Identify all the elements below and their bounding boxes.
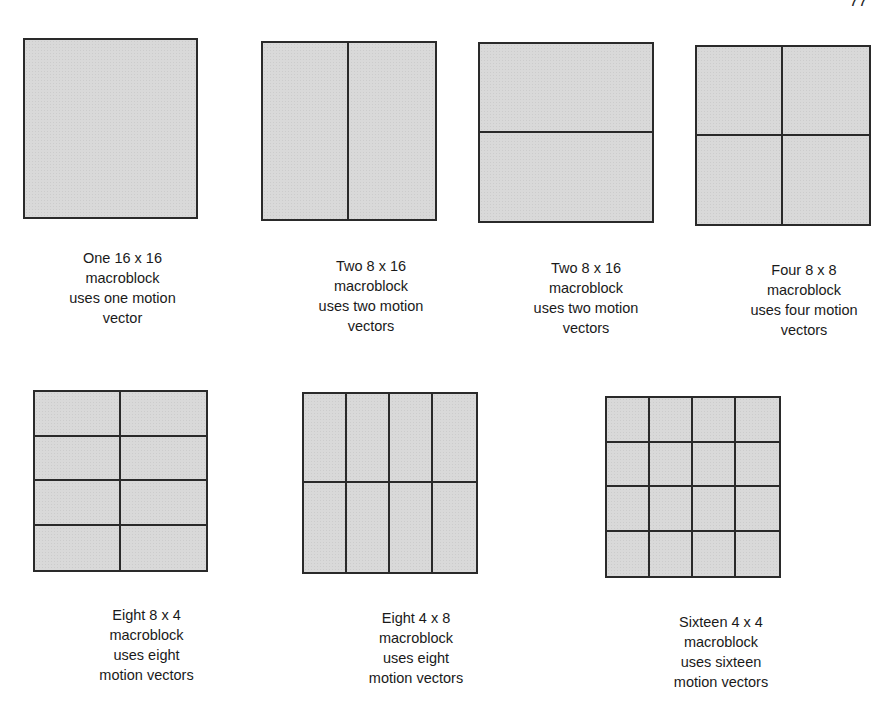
macroblock-4x4 [605,396,781,578]
caption-line: motion vectors [323,668,509,688]
partition-cell [650,487,693,532]
partition-cell [121,526,207,571]
caption-line: macroblock [493,278,679,298]
partition-cell [607,398,650,443]
caption-line: uses four motion [711,300,884,320]
macroblock-8x8 [695,45,871,226]
macroblock-caption: Two 8 x 16macroblockuses two motionvecto… [278,256,464,336]
partition-cell [433,483,476,572]
partition-cell [35,437,121,482]
macroblock-caption: One 16 x 16macroblockuses one motionvect… [30,248,215,328]
partition-cell [736,532,779,577]
partition-cell [263,43,349,219]
partition-cell [480,133,652,222]
caption-line: uses two motion [493,298,679,318]
macroblock-caption: Sixteen 4 x 4macroblockuses sixteenmotio… [628,612,814,692]
caption-line: vectors [711,320,884,340]
partition-cell [607,532,650,577]
partition-cell [697,47,783,136]
partition-cell [121,392,207,437]
partition-cell [607,487,650,532]
partition-cell [693,487,736,532]
caption-line: vectors [278,316,464,336]
partition-cell [480,44,652,133]
macroblock-caption: Eight 4 x 8macroblockuses eightmotion ve… [323,608,509,688]
caption-line: macroblock [628,632,814,652]
macroblock-4x8 [302,392,478,574]
caption-line: Two 8 x 16 [493,258,679,278]
caption-line: Sixteen 4 x 4 [628,612,814,632]
macroblock-caption: Four 8 x 8macroblockuses four motionvect… [711,260,884,340]
partition-cell [650,443,693,488]
caption-line: motion vectors [628,672,814,692]
macroblock-8x4 [33,390,208,572]
caption-line: motion vectors [54,665,239,685]
partition-cell [349,43,435,219]
partition-cell [121,437,207,482]
partition-cell [347,394,390,483]
caption-line: uses two motion [278,296,464,316]
caption-line: Eight 8 x 4 [54,605,239,625]
partition-cell [25,40,196,217]
caption-line: uses eight [54,645,239,665]
caption-line: uses one motion [30,288,215,308]
caption-line: One 16 x 16 [30,248,215,268]
partition-cell [35,526,121,571]
macroblock-caption: Two 8 x 16macroblockuses two motionvecto… [493,258,679,338]
partition-cell [693,443,736,488]
caption-line: Two 8 x 16 [278,256,464,276]
partition-cell [121,481,207,526]
partition-cell [607,443,650,488]
caption-line: macroblock [278,276,464,296]
partition-cell [693,398,736,443]
partition-cell [693,532,736,577]
macroblock-16x16 [23,38,198,219]
caption-line: vector [30,308,215,328]
caption-line: macroblock [711,280,884,300]
caption-line: uses eight [323,648,509,668]
caption-line: macroblock [323,628,509,648]
partition-cell [783,47,869,136]
caption-line: vectors [493,318,679,338]
partition-cell [304,394,347,483]
partition-cell [35,481,121,526]
macroblock-caption: Eight 8 x 4macroblockuses eightmotion ve… [54,605,239,685]
page-number: 77 [850,0,868,10]
macroblock-8x16-horizontal [478,42,654,223]
partition-cell [35,392,121,437]
caption-line: macroblock [54,625,239,645]
caption-line: Eight 4 x 8 [323,608,509,628]
partition-cell [390,483,433,572]
partition-cell [736,398,779,443]
partition-cell [783,136,869,225]
macroblock-8x16-vertical [261,41,437,221]
partition-cell [304,483,347,572]
partition-cell [433,394,476,483]
caption-line: Four 8 x 8 [711,260,884,280]
partition-cell [650,532,693,577]
partition-cell [650,398,693,443]
caption-line: macroblock [30,268,215,288]
partition-cell [697,136,783,225]
caption-line: uses sixteen [628,652,814,672]
partition-cell [347,483,390,572]
partition-cell [736,487,779,532]
partition-cell [736,443,779,488]
partition-cell [390,394,433,483]
